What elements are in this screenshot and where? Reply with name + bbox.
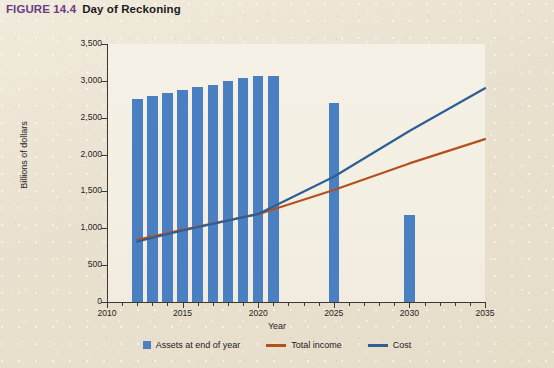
x-tick-minor bbox=[137, 302, 138, 306]
x-tick-minor bbox=[304, 302, 305, 306]
x-tick-label: 2010 bbox=[97, 308, 116, 318]
legend-label: Cost bbox=[393, 340, 412, 350]
legend-item[interactable]: Assets at end of year bbox=[143, 340, 241, 350]
x-tick-minor bbox=[152, 302, 153, 306]
y-tick-label: 2,500 bbox=[62, 112, 102, 122]
y-tick-label: 1,000 bbox=[62, 222, 102, 232]
x-tick-minor bbox=[213, 302, 214, 306]
x-tick-minor bbox=[440, 302, 441, 306]
y-tick-label: 500 bbox=[62, 259, 102, 269]
x-tick-minor bbox=[425, 302, 426, 306]
x-tick-minor bbox=[379, 302, 380, 306]
line-total-income bbox=[137, 139, 485, 240]
x-tick-label: 2020 bbox=[249, 308, 268, 318]
x-tick-label: 2030 bbox=[400, 308, 419, 318]
line-series-group bbox=[107, 44, 485, 302]
legend-box-swatch-icon bbox=[143, 341, 151, 349]
x-tick-minor bbox=[198, 302, 199, 306]
x-tick-minor bbox=[364, 302, 365, 306]
line-cost bbox=[137, 88, 485, 241]
x-tick-minor bbox=[122, 302, 123, 306]
y-tick-label: 1,500 bbox=[62, 185, 102, 195]
x-axis-line bbox=[107, 302, 486, 303]
y-axis-title: Billions of dollars bbox=[19, 95, 29, 215]
x-tick-minor bbox=[288, 302, 289, 306]
x-tick-minor bbox=[228, 302, 229, 306]
x-tick-minor bbox=[167, 302, 168, 306]
x-tick-label: 2015 bbox=[173, 308, 192, 318]
legend-item[interactable]: Cost bbox=[368, 340, 412, 350]
legend-line-swatch-icon bbox=[266, 344, 286, 347]
x-tick-minor bbox=[455, 302, 456, 306]
x-tick-minor bbox=[394, 302, 395, 306]
x-tick-minor bbox=[243, 302, 244, 306]
legend-label: Total income bbox=[291, 340, 342, 350]
legend-item[interactable]: Total income bbox=[266, 340, 342, 350]
x-tick-minor bbox=[319, 302, 320, 306]
x-tick-minor bbox=[470, 302, 471, 306]
legend-line-swatch-icon bbox=[368, 344, 388, 347]
y-tick-label: 3,000 bbox=[62, 75, 102, 85]
y-tick-label: 0 bbox=[62, 296, 102, 306]
chart-legend: Assets at end of yearTotal incomeCost bbox=[0, 340, 554, 350]
y-tick-label: 2,000 bbox=[62, 149, 102, 159]
y-axis-tick-labels: 05001,0001,5002,0002,5003,0003,500 bbox=[54, 0, 102, 368]
x-axis-title: Year bbox=[0, 321, 554, 331]
x-tick-minor bbox=[349, 302, 350, 306]
x-tick-minor bbox=[273, 302, 274, 306]
x-tick-label: 2025 bbox=[324, 308, 343, 318]
y-tick-label: 3,500 bbox=[62, 38, 102, 48]
x-tick-label: 2035 bbox=[475, 308, 494, 318]
chart-canvas: 05001,0001,5002,0002,5003,0003,500 20102… bbox=[0, 0, 554, 368]
legend-label: Assets at end of year bbox=[156, 340, 241, 350]
